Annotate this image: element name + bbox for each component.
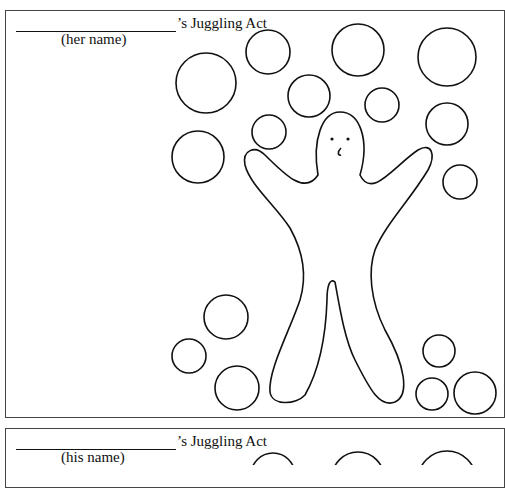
juggling-ball-icon [416, 378, 448, 410]
juggling-ball-icon [172, 131, 224, 183]
juggling-ball-icon [172, 339, 206, 373]
right-eye-icon [347, 138, 349, 140]
juggler-outline-icon [245, 112, 433, 403]
juggling-balls [172, 24, 496, 465]
juggling-ball-icon [215, 366, 259, 410]
juggling-ball-icon [252, 115, 286, 149]
left-eye-icon [331, 138, 333, 140]
juggling-ball-icon [454, 372, 496, 414]
juggler-figure [245, 112, 433, 403]
juggling-ball-icon [251, 453, 295, 465]
juggling-ball-icon [332, 24, 384, 76]
juggling-ball-icon [288, 75, 330, 117]
juggling-ball-icon [423, 335, 455, 367]
juggling-ball-icon [418, 28, 476, 86]
juggling-ball-icon [176, 53, 236, 113]
juggling-ball-icon [332, 452, 384, 465]
juggling-ball-icon [204, 295, 248, 339]
juggling-ball-icon [418, 451, 476, 465]
mouth-icon [338, 148, 341, 155]
juggling-ball-icon [365, 88, 399, 122]
juggling-ball-icon [426, 103, 468, 145]
juggling-ball-icon [443, 165, 477, 199]
juggling-ball-icon [246, 30, 290, 74]
